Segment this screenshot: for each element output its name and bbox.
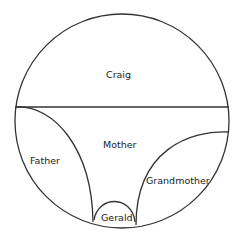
label-mother: Mother	[103, 139, 137, 150]
label-gerald: Gerald	[101, 212, 133, 223]
label-father: Father	[30, 155, 60, 166]
label-grandmother: Grandmother	[146, 175, 210, 186]
family-circle-diagram: Craig Mother Father Grandmother Gerald	[0, 0, 242, 240]
outer-circle	[15, 14, 229, 228]
label-craig: Craig	[106, 69, 131, 80]
